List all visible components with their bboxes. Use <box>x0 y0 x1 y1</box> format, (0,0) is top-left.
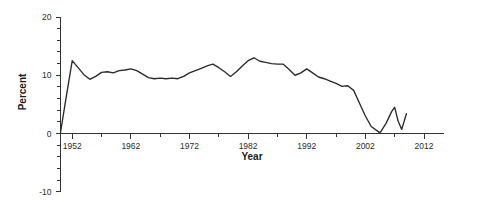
y-tick-label: 10 <box>42 70 52 80</box>
x-tick-label: 1952 <box>63 141 82 151</box>
y-tick-label: -10 <box>39 187 52 197</box>
x-tick-label: 1972 <box>180 141 199 151</box>
chart-container: -1001020 1952196219721982199220022012 Pe… <box>0 0 485 201</box>
x-tick-label: 2012 <box>415 141 434 151</box>
y-tick-label: 20 <box>42 12 52 22</box>
x-axis-title: Year <box>241 151 262 162</box>
axes <box>61 17 445 191</box>
y-axis-tick-labels: -1001020 <box>39 12 52 197</box>
y-axis-ticks <box>56 17 61 192</box>
x-tick-label: 1992 <box>297 141 316 151</box>
x-tick-label: 2002 <box>356 141 375 151</box>
x-axis-tick-labels: 1952196219721982199220022012 <box>63 141 434 151</box>
y-axis-title: Percent <box>17 73 28 110</box>
y-tick-label: 0 <box>47 129 52 139</box>
x-tick-label: 1962 <box>121 141 140 151</box>
x-tick-label: 1982 <box>239 141 258 151</box>
line-chart-svg: -1001020 1952196219721982199220022012 Pe… <box>0 0 485 201</box>
data-series-line <box>61 58 407 133</box>
x-axis-ticks <box>72 134 424 139</box>
